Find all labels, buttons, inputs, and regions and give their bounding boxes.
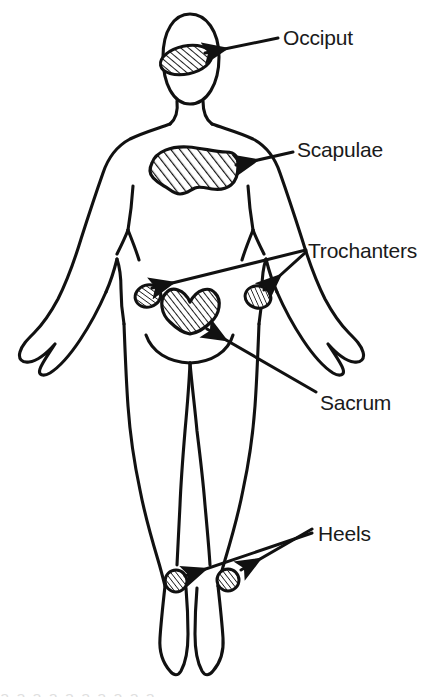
page-bottom-text-artifact: a a a a a a a a a a [0,688,446,697]
leg-left-inner [177,363,190,565]
right-armpit-crease-2 [253,230,264,254]
occiput-marker [158,41,215,79]
leg-right-outer [218,324,259,586]
left-armpit-crease [128,186,133,230]
right-armpit-crease-3 [242,230,253,260]
left-side-seam [106,259,117,292]
label-scapulae: Scapulae [297,139,383,160]
heel-left-marker [165,570,187,592]
left-armpit-crease-3 [128,230,139,260]
heel-right-marker [217,569,239,591]
label-trochanters: Trochanters [308,240,417,261]
scapulae-arrow [236,152,293,165]
leg-right-inner [190,363,210,565]
foot-right [195,586,223,675]
pressure-points-figure: Occiput Scapulae Trochanters Sacrum Heel… [0,0,446,697]
foot-left [160,586,188,675]
label-sacrum: Sacrum [320,392,391,413]
sacrum-marker [162,289,219,334]
scapulae-marker [150,147,238,194]
heel-right-arrow [241,529,312,570]
gluteal-fold-left [146,335,190,363]
label-heels: Heels [318,523,371,544]
trochanter-left-arrow [152,250,306,288]
label-occiput: Occiput [283,27,353,48]
neck-right [203,101,212,124]
right-armpit-crease [248,186,253,230]
sacrum-arrow [207,329,316,392]
left-armpit-crease-2 [117,230,128,254]
neck-left [170,101,177,124]
hip-left-outline [117,259,124,324]
leg-left-outer [124,324,165,586]
body-diagram-svg [0,0,446,697]
